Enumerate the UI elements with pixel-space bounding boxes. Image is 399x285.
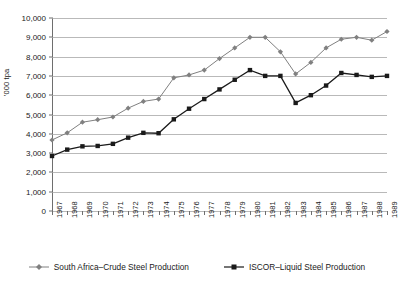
x-tick-mark (250, 211, 251, 215)
x-tick-mark (189, 211, 190, 215)
x-tick-mark (174, 211, 175, 215)
data-point-diamond-icon (110, 114, 115, 119)
x-tick-mark (128, 211, 129, 215)
x-tick-mark (372, 211, 373, 215)
data-point-diamond-icon (126, 106, 131, 111)
data-point-square-icon (324, 83, 328, 87)
y-axis-tick-label: 4,000 (26, 129, 52, 138)
data-point-square-icon (354, 73, 358, 77)
x-tick-mark (113, 211, 114, 215)
chart-legend: South Africa–Crude Steel Production ISCO… (0, 262, 393, 272)
data-point-diamond-icon (95, 117, 100, 122)
data-point-square-icon (248, 68, 252, 72)
data-point-square-icon (111, 142, 115, 146)
y-axis-tick-label: 1,000 (26, 187, 52, 196)
legend-marker-square-icon (223, 262, 245, 272)
y-axis-tick-label: 8,000 (26, 52, 52, 61)
x-tick-mark (280, 211, 281, 215)
x-tick-mark (296, 211, 297, 215)
x-tick-mark (82, 211, 83, 215)
series-line (52, 70, 387, 156)
data-point-square-icon (293, 101, 297, 105)
data-point-square-icon (141, 131, 145, 135)
data-point-square-icon (187, 107, 191, 111)
data-point-square-icon (156, 131, 160, 135)
y-axis-tick-label: 2,000 (26, 168, 52, 177)
data-point-diamond-icon (354, 35, 359, 40)
data-point-diamond-icon (186, 72, 191, 77)
legend-item-south-africa: South Africa–Crude Steel Production (28, 262, 189, 272)
x-tick-mark (357, 211, 358, 215)
series-iscor (50, 68, 389, 158)
x-tick-mark (204, 211, 205, 215)
x-tick-mark (265, 211, 266, 215)
y-axis-tick-label: 3,000 (26, 149, 52, 158)
data-point-square-icon (233, 78, 237, 82)
plot-area: 01,0002,0003,0004,0005,0006,0007,0008,00… (52, 18, 387, 211)
series-layer (52, 18, 387, 211)
x-tick-mark (143, 211, 144, 215)
data-point-square-icon (278, 74, 282, 78)
y-axis-title: '000 tpa (2, 36, 11, 96)
y-axis-tick-label: 0 (42, 207, 52, 216)
data-point-diamond-icon (384, 29, 389, 34)
data-point-square-icon (263, 74, 267, 78)
legend-item-iscor: ISCOR–Liquid Steel Production (223, 262, 365, 272)
legend-marker-diamond-icon (28, 262, 50, 272)
data-point-square-icon (370, 75, 374, 79)
data-point-square-icon (50, 154, 54, 158)
data-point-square-icon (172, 117, 176, 121)
data-point-diamond-icon (141, 99, 146, 104)
data-point-diamond-icon (339, 37, 344, 42)
data-point-square-icon (309, 93, 313, 97)
x-tick-mark (98, 211, 99, 215)
y-axis-title-wrap: '000 tpa (0, 0, 20, 220)
y-axis-tick-label: 6,000 (26, 91, 52, 100)
x-tick-mark (52, 211, 53, 215)
data-point-square-icon (80, 144, 84, 148)
x-tick-mark (159, 211, 160, 215)
x-tick-mark (311, 211, 312, 215)
y-axis-tick-label: 10,000 (22, 14, 52, 23)
data-point-square-icon (202, 97, 206, 101)
data-point-square-icon (126, 135, 130, 139)
legend-label-iscor: ISCOR–Liquid Steel Production (249, 262, 365, 272)
x-tick-mark (67, 211, 68, 215)
data-point-square-icon (385, 74, 389, 78)
legend-label-south-africa: South Africa–Crude Steel Production (54, 262, 189, 272)
data-point-square-icon (217, 87, 221, 91)
y-axis-tick-label: 9,000 (26, 33, 52, 42)
x-tick-mark (235, 211, 236, 215)
x-axis-tick-label: 1989 (390, 201, 399, 218)
y-axis-tick-label: 5,000 (26, 110, 52, 119)
x-tick-mark (220, 211, 221, 215)
series-line (52, 32, 387, 140)
x-tick-mark (341, 211, 342, 215)
data-point-square-icon (65, 147, 69, 151)
data-point-square-icon (339, 71, 343, 75)
x-tick-mark (387, 211, 388, 215)
x-tick-mark (326, 211, 327, 215)
y-axis-tick-label: 7,000 (26, 71, 52, 80)
data-point-diamond-icon (369, 38, 374, 43)
series-south-africa (49, 29, 389, 143)
data-point-square-icon (95, 144, 99, 148)
